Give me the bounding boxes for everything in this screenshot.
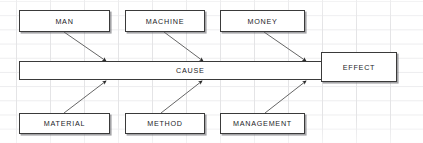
cause-bottom-label: MANAGEMENT	[233, 119, 292, 128]
cause-spine-bar[interactable]: CAUSE	[19, 61, 322, 80]
cause-bottom-arrow	[64, 81, 106, 113]
cause-top-arrow	[164, 32, 203, 61]
cause-bottom-arrow	[161, 81, 202, 113]
cause-bottom-box[interactable]: METHOD	[125, 113, 205, 134]
cause-bottom-box[interactable]: MATERIAL	[19, 113, 110, 134]
effect-box[interactable]: EFFECT	[321, 52, 397, 82]
cause-bottom-arrow	[265, 81, 306, 113]
cause-top-box[interactable]: MACHINE	[125, 10, 205, 32]
top-cause-arrows	[64, 32, 306, 61]
cause-top-arrow	[64, 32, 106, 61]
effect-label: EFFECT	[343, 63, 375, 72]
cause-bottom-box[interactable]: MANAGEMENT	[220, 113, 305, 134]
cause-top-box[interactable]: MAN	[19, 10, 110, 32]
cause-top-box[interactable]: MONEY	[220, 10, 305, 32]
cause-top-arrow	[264, 32, 306, 61]
cause-bottom-label: MATERIAL	[44, 119, 85, 128]
fishbone-diagram-canvas: MANMACHINEMONEY CAUSE EFFECT MATERIALMET…	[0, 0, 423, 143]
cause-top-label: MONEY	[247, 17, 277, 26]
cause-spine-label: CAUSE	[176, 66, 205, 75]
cause-top-label: MAN	[55, 17, 73, 26]
cause-bottom-label: METHOD	[147, 119, 183, 128]
cause-top-label: MACHINE	[146, 17, 184, 26]
bottom-cause-arrows	[64, 81, 306, 113]
